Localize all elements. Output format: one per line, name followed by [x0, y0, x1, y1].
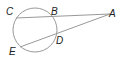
- label-d: D: [56, 35, 63, 46]
- geometry-diagram: C B A D E: [0, 0, 122, 58]
- secant-ea: [20, 14, 110, 47]
- label-e: E: [9, 46, 16, 57]
- label-c: C: [6, 6, 14, 17]
- label-a: A: [108, 8, 116, 19]
- label-b: B: [51, 6, 58, 17]
- secant-ca: [16, 14, 110, 18]
